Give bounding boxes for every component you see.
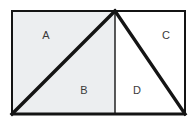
region-label-c: C — [162, 29, 170, 41]
region-label-a: A — [42, 29, 50, 41]
region-label-b: B — [80, 84, 87, 96]
region-label-d: D — [133, 84, 141, 96]
figure-canvas: A B C D — [0, 0, 196, 123]
geometry-figure: A B C D — [0, 0, 196, 123]
